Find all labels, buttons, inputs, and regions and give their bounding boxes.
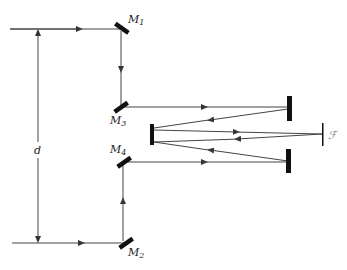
label-screen: ℱ <box>328 129 339 142</box>
label-m2: M2 <box>127 246 144 260</box>
mirror-right-lower <box>286 149 291 173</box>
mirror-right-upper <box>287 96 292 121</box>
optical-diagram: M1 M3 M4 M2 d ℱ <box>0 0 347 270</box>
label-m4: M4 <box>109 143 126 157</box>
mirror-center <box>150 124 154 145</box>
label-m3: M3 <box>109 114 126 128</box>
label-m1: M1 <box>127 13 144 27</box>
screen <box>322 123 324 146</box>
label-distance-d: d <box>34 144 41 157</box>
